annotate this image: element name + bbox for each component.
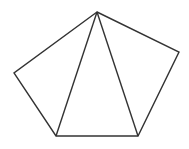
diagram-canvas [0, 0, 189, 149]
pentagon-outline [14, 12, 179, 136]
diagonal-top-to-bottom-right [97, 12, 138, 136]
pentagon-diagram [0, 0, 189, 149]
diagonal-top-to-bottom-left [56, 12, 97, 136]
